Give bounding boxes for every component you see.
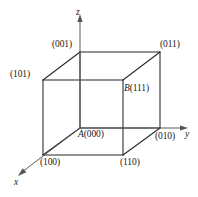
vertex-label-111: B(111) <box>124 84 149 94</box>
vertex-label-010: (010) <box>155 132 175 142</box>
vertex-label-000: A(000) <box>78 130 104 140</box>
x-axis-label: x <box>14 178 18 188</box>
cube-wireframe-drawing <box>0 0 198 197</box>
vertex-label-001: (001) <box>52 40 72 50</box>
vertex-label-100: (100) <box>40 158 60 168</box>
edge-011-111 <box>123 52 160 80</box>
vertex-label-110: (110) <box>120 158 140 168</box>
vertex-label-101: (101) <box>10 70 30 80</box>
vertex-code-111: (111) <box>130 83 149 93</box>
y-axis-label: y <box>185 130 189 140</box>
edge-001-101 <box>43 52 80 80</box>
z-axis-label: z <box>76 8 80 18</box>
vertex-code-000: (000) <box>84 129 104 139</box>
cube-coordinate-figure: (001) (011) (101) B(111) A(000) (010) (1… <box>0 0 198 197</box>
vertex-label-011: (011) <box>160 40 180 50</box>
